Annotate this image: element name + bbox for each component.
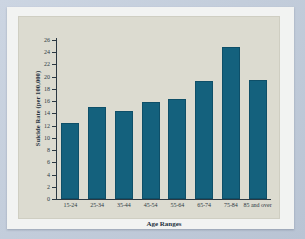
y-axis-tick-label: 0 xyxy=(24,196,50,202)
y-axis-tick-label: 16 xyxy=(24,98,50,104)
y-axis-tick-label: 18 xyxy=(24,86,50,92)
y-axis-tick-label: 24 xyxy=(24,49,50,55)
bar xyxy=(142,102,160,199)
y-axis-tick-label: 12 xyxy=(24,123,50,129)
bar xyxy=(195,81,213,199)
bar-slot xyxy=(191,17,218,199)
bar xyxy=(88,107,106,199)
y-axis-tick-label: 22 xyxy=(24,61,50,67)
y-axis-tick-label: 10 xyxy=(24,135,50,141)
plot-area: Suicide Rate (per 100,000) 0246810121416… xyxy=(19,17,279,218)
bar-series xyxy=(57,17,271,200)
bar xyxy=(249,80,267,199)
bar-slot xyxy=(218,17,245,199)
bar xyxy=(222,47,240,199)
bar-chart: Suicide Rate (per 100,000) 0246810121416… xyxy=(18,16,280,219)
bar xyxy=(168,99,186,199)
bar-slot xyxy=(137,17,164,199)
y-axis-tick-label: 6 xyxy=(24,159,50,165)
bar-slot xyxy=(57,17,84,199)
bar xyxy=(115,111,133,199)
x-axis-title: Age Ranges xyxy=(57,220,271,228)
y-axis-tick-label: 4 xyxy=(24,172,50,178)
bar-slot xyxy=(111,17,138,199)
x-axis-tick-label: 85 and over xyxy=(241,202,275,210)
y-axis-tick-label: 8 xyxy=(24,147,50,153)
y-axis-tick-label: 14 xyxy=(24,110,50,116)
bar-slot xyxy=(84,17,111,199)
figure-root: Suicide Rate (per 100,000) 0246810121416… xyxy=(0,0,305,239)
bar-slot xyxy=(164,17,191,199)
bar-slot xyxy=(244,17,271,199)
chart-paper-card: Suicide Rate (per 100,000) 0246810121416… xyxy=(7,7,294,229)
y-axis-tick-label: 26 xyxy=(24,37,50,43)
y-axis-tick-label: 2 xyxy=(24,184,50,190)
y-axis-tick-label: 20 xyxy=(24,74,50,80)
bar xyxy=(61,123,79,199)
